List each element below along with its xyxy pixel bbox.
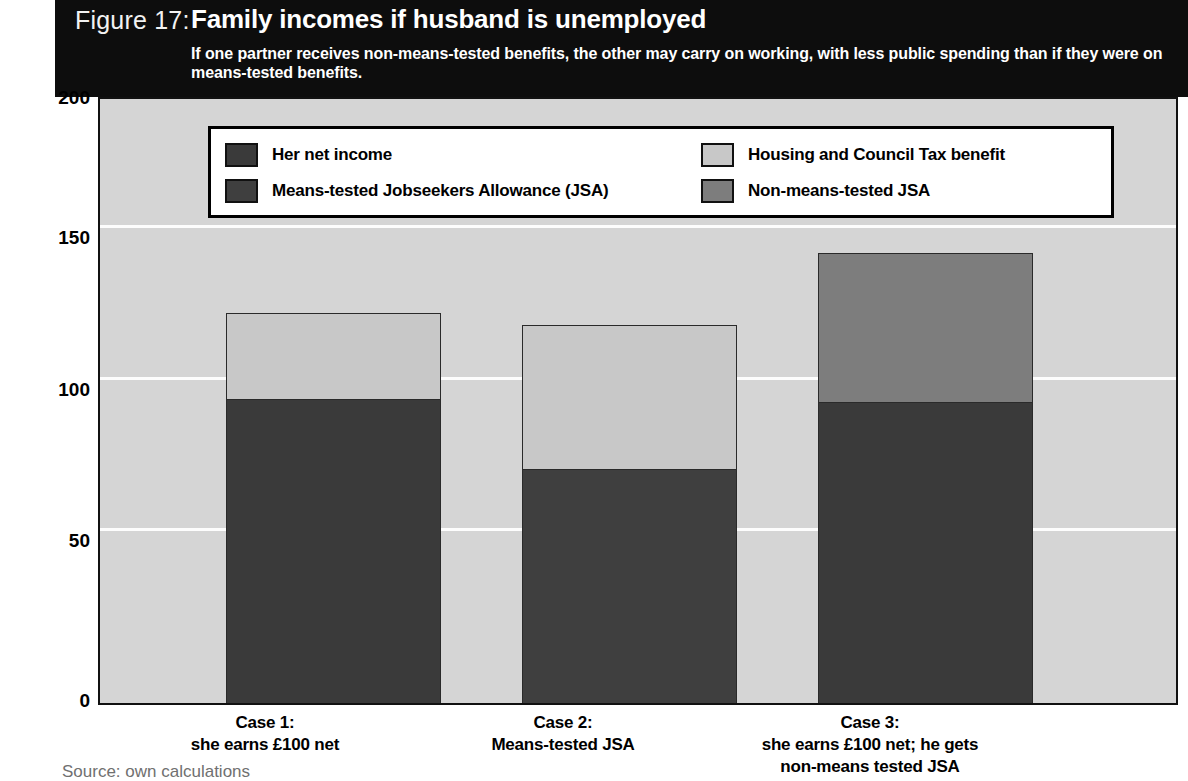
legend-label-housing-council-tax-benefit: Housing and Council Tax benefit bbox=[748, 145, 1005, 165]
category-label-case-3-line-3: non-means tested JSA bbox=[705, 756, 1035, 778]
y-tick-150: 150 bbox=[0, 227, 90, 249]
legend-item-non-means-tested-jsa[interactable]: Non-means-tested JSA bbox=[701, 173, 1005, 209]
category-label-case-3-line-2: she earns £100 net; he gets bbox=[705, 734, 1035, 756]
legend-label-non-means-tested-jsa: Non-means-tested JSA bbox=[748, 181, 930, 201]
figure-number-label: Figure 17: bbox=[75, 6, 190, 35]
category-label-case-3: Case 3: she earns £100 net; he gets non-… bbox=[705, 712, 1035, 778]
bar-segment-housing-council-tax-benefit-2[interactable] bbox=[522, 325, 737, 470]
bar-segment-her-net-income-3[interactable] bbox=[818, 402, 1033, 703]
category-label-case-2: Case 2: Means-tested JSA bbox=[418, 712, 708, 756]
chart-subtitle: If one partner receives non-means-tested… bbox=[191, 44, 1166, 82]
legend-column-left: Her net income Means-tested Jobseekers A… bbox=[225, 137, 608, 209]
legend-label-her-net-income: Her net income bbox=[272, 145, 392, 165]
chart-legend: Her net income Means-tested Jobseekers A… bbox=[208, 126, 1114, 218]
category-label-case-1-line-1: Case 1: bbox=[120, 712, 410, 734]
y-tick-50: 50 bbox=[0, 530, 90, 552]
category-label-case-2-line-1: Case 2: bbox=[418, 712, 708, 734]
category-label-case-2-line-2: Means-tested JSA bbox=[418, 734, 708, 756]
bar-case-2[interactable] bbox=[522, 325, 737, 703]
legend-item-her-net-income[interactable]: Her net income bbox=[225, 137, 608, 173]
plot-area: Her net income Means-tested Jobseekers A… bbox=[98, 97, 1178, 705]
y-tick-0: 0 bbox=[0, 690, 90, 712]
gridline-150 bbox=[100, 225, 1176, 228]
legend-swatch-means-tested-jsa bbox=[225, 179, 258, 203]
bar-case-1[interactable] bbox=[226, 313, 441, 703]
legend-swatch-her-net-income bbox=[225, 143, 258, 167]
category-label-case-1: Case 1: she earns £100 net bbox=[120, 712, 410, 756]
bar-case-3[interactable] bbox=[818, 253, 1033, 703]
bar-segment-means-tested-jsa[interactable] bbox=[522, 469, 737, 703]
legend-column-right: Housing and Council Tax benefit Non-mean… bbox=[701, 137, 1005, 209]
chart-title: Family incomes if husband is unemployed bbox=[191, 4, 706, 35]
legend-item-housing-council-tax-benefit[interactable]: Housing and Council Tax benefit bbox=[701, 137, 1005, 173]
source-note: Source: own calculations bbox=[62, 762, 250, 781]
bar-segment-her-net-income[interactable] bbox=[226, 399, 441, 703]
legend-label-means-tested-jsa: Means-tested Jobseekers Allowance (JSA) bbox=[272, 181, 608, 201]
category-label-case-1-line-2: she earns £100 net bbox=[120, 734, 410, 756]
category-label-case-3-line-1: Case 3: bbox=[705, 712, 1035, 734]
bar-segment-non-means-tested-jsa[interactable] bbox=[818, 253, 1033, 403]
legend-item-means-tested-jsa[interactable]: Means-tested Jobseekers Allowance (JSA) bbox=[225, 173, 608, 209]
y-tick-200: 200 bbox=[0, 87, 90, 109]
legend-swatch-non-means-tested-jsa bbox=[701, 179, 734, 203]
legend-swatch-housing-council-tax-benefit bbox=[701, 143, 734, 167]
y-tick-100: 100 bbox=[0, 379, 90, 401]
bar-segment-housing-council-tax-benefit[interactable] bbox=[226, 313, 441, 400]
